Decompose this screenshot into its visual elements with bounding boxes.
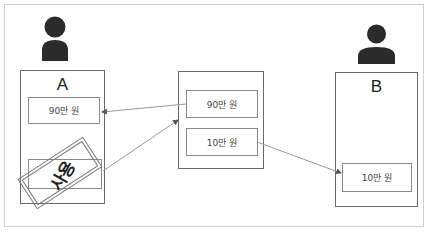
arrow-middle-to-b	[257, 142, 341, 173]
arrows-layer	[0, 0, 434, 234]
arrow-middle-to-a	[102, 104, 186, 112]
arrow-a-to-middle	[103, 120, 178, 171]
